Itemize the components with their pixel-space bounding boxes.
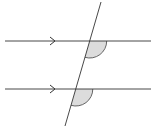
lines-group (5, 2, 151, 126)
transversal-line (65, 2, 101, 126)
parallel-lines-diagram (0, 0, 156, 129)
lower-angle (71, 89, 93, 106)
shaded-angles (71, 41, 107, 106)
upper-angle (85, 41, 107, 58)
